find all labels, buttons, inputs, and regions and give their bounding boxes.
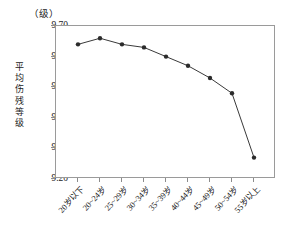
y-axis-unit-label: （级） xyxy=(29,8,59,20)
y-axis-title-char: 平 xyxy=(13,62,26,73)
y-axis-title-char: 级 xyxy=(13,118,26,129)
data-point-marker xyxy=(252,155,256,159)
data-point-marker xyxy=(98,36,102,40)
data-point-marker xyxy=(230,91,234,95)
data-point-marker xyxy=(120,42,124,46)
y-axis-title: 平 均 伤 残 等 级 xyxy=(13,62,26,129)
y-axis-tick-mark xyxy=(51,178,55,179)
data-point-marker xyxy=(76,42,80,46)
data-point-marker xyxy=(142,45,146,49)
y-axis-title-char: 伤 xyxy=(13,84,26,95)
y-axis-title-char: 等 xyxy=(13,107,26,118)
data-point-marker xyxy=(186,64,190,68)
y-axis-title-char: 均 xyxy=(13,73,26,84)
data-point-marker xyxy=(164,54,168,58)
data-point-marker xyxy=(208,76,212,80)
plot-area xyxy=(55,25,275,178)
data-series-svg xyxy=(56,26,276,179)
y-axis-title-char: 残 xyxy=(13,96,26,107)
disability-level-by-age-line-chart: （级） 平 均 伤 残 等 级 9.709.609.509.409.309.20… xyxy=(0,0,299,240)
